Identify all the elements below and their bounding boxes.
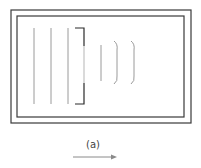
diffracted-wavefronts: [101, 41, 134, 84]
barrier-with-aperture: [75, 28, 84, 104]
diffracted-wavefront-3: [131, 41, 134, 84]
arrow-head-icon: [111, 155, 117, 160]
caption-label: (a): [86, 139, 100, 150]
direction-arrow: [73, 155, 117, 160]
diffraction-diagram: [0, 0, 201, 168]
diffracted-wavefront-2: [114, 41, 117, 84]
incident-wavefronts: [34, 28, 68, 104]
barrier-upper: [75, 28, 84, 46]
barrier-lower: [75, 83, 84, 104]
